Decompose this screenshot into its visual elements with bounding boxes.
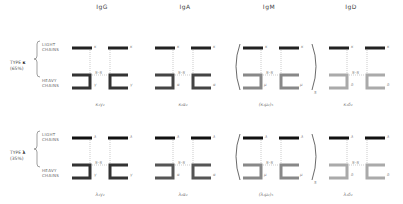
heavy-letter: γ (94, 172, 96, 177)
igg-kappa-molecule (72, 47, 128, 89)
disulfide-label: S–S (266, 70, 273, 75)
heavy-letter: μ (300, 82, 303, 87)
disulfide-label: S–S (95, 70, 102, 75)
light-letter: κ (387, 44, 389, 49)
light-letter: λ (213, 134, 215, 139)
light-letter: κ (351, 44, 353, 49)
light-letter: λ (265, 134, 267, 139)
light-letter: κ (94, 44, 96, 49)
disulfide-label: S–S (352, 70, 359, 75)
heavy-letter: α (177, 172, 180, 177)
light-letter: λ (130, 134, 132, 139)
heavy-letter: α (177, 82, 180, 87)
igd-lambda-molecule (329, 137, 385, 179)
heavy-letter: α (213, 172, 216, 177)
igg-lambda-molecule (72, 137, 128, 179)
disulfide-label: S–S (352, 160, 359, 165)
light-letter: λ (351, 134, 353, 139)
heavy-letter: μ (264, 82, 267, 87)
disulfide-label: S–S (95, 160, 102, 165)
light-letter: λ (301, 134, 303, 139)
light-letter: κ (265, 44, 267, 49)
heavy-letter: γ (130, 82, 132, 87)
light-letter: κ (213, 44, 215, 49)
heavy-letter: δ (351, 82, 353, 87)
heavy-letter: δ (351, 172, 353, 177)
heavy-letter: δ (387, 82, 389, 87)
light-letter: λ (387, 134, 389, 139)
light-letter: κ (301, 44, 303, 49)
igd-kappa-molecule (329, 47, 385, 89)
heavy-letter: α (213, 82, 216, 87)
pentamer-subscript: 5 (314, 90, 317, 95)
pentamer-subscript: 5 (314, 180, 317, 185)
heavy-letter: γ (94, 82, 96, 87)
disulfide-label: S–S (266, 160, 273, 165)
igm-lambda-molecule (236, 134, 316, 180)
antibody-diagram (0, 0, 403, 204)
iga-lambda-molecule (155, 137, 211, 179)
light-letter: κ (177, 44, 179, 49)
iga-kappa-molecule (155, 47, 211, 89)
heavy-letter: δ (387, 172, 389, 177)
disulfide-label: S–S (178, 70, 185, 75)
igm-kappa-molecule (236, 44, 316, 90)
heavy-letter: μ (264, 172, 267, 177)
light-letter: κ (130, 44, 132, 49)
light-letter: λ (177, 134, 179, 139)
heavy-letter: γ (130, 172, 132, 177)
brace-icon (34, 131, 40, 167)
heavy-letter: μ (300, 172, 303, 177)
disulfide-label: S–S (178, 160, 185, 165)
brace-icon (34, 41, 40, 77)
light-letter: λ (94, 134, 96, 139)
